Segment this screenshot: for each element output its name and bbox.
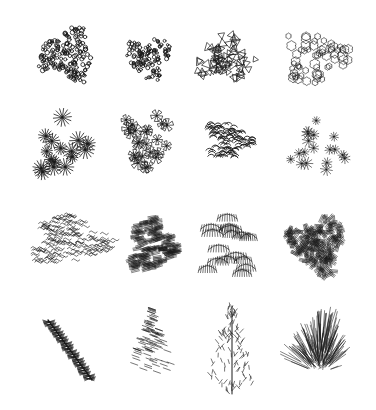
symbol-pebble-cluster — [37, 26, 92, 84]
symbol-cloud-outline-shrub — [286, 32, 353, 86]
symbol-upright-frond-spray — [208, 303, 254, 394]
symbol-fan-grass-mound — [281, 307, 350, 369]
symbol-tangled-hatch-mass — [283, 214, 345, 280]
symbol-dense-dot-cluster — [126, 38, 171, 82]
symbol-curled-stroke-mound — [205, 122, 256, 158]
symbol-conifer-triangle — [131, 308, 174, 374]
symbol-petal-flower-cluster — [121, 110, 173, 173]
shrub-symbol-sheet — [0, 0, 376, 410]
symbol-diagonal-branch-fern — [43, 320, 96, 381]
symbol-starburst-cluster — [33, 108, 95, 179]
symbol-hatched-leaf-mass — [126, 216, 182, 273]
symbol-triangle-leaf-cluster — [195, 31, 258, 82]
symbol-tiered-frond-shrub — [198, 213, 257, 276]
symbol-scattered-star-cluster — [287, 117, 350, 176]
symbol-wavy-leaf-spread — [31, 213, 119, 264]
illustration-canvas — [0, 0, 376, 410]
